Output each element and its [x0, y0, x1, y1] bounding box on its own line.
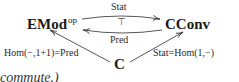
stat-label: Stat	[111, 2, 127, 12]
pred-arrow	[83, 30, 162, 33]
object-emod-op: EModop	[27, 17, 77, 32]
object-emod-label: EMod	[27, 16, 67, 32]
object-cconv: CConv	[165, 17, 210, 32]
right-arrow-label: Stat=Hom(1,−)	[153, 48, 214, 58]
adjunction-symbol: ⊤	[117, 17, 126, 27]
object-c: C	[114, 57, 125, 72]
op-superscript: op	[68, 15, 77, 25]
left-arrow-label: Hom(−,1+1)=Pred	[4, 48, 78, 58]
clipped-caption-text: commute.)	[0, 71, 59, 82]
pred-label: Pred	[110, 35, 128, 45]
